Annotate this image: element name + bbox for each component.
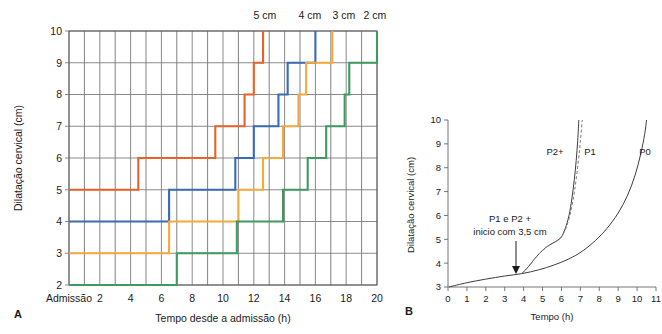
panel-a-x-tick: 14 [279,292,291,304]
curve-label-p2plus: P2+ [546,146,564,157]
panel-a-gridlines [69,31,377,285]
panel-b-x-tick: 4 [521,293,526,304]
panel-a-x-tick: 12 [248,292,260,304]
panel-b-x-tick: 3 [502,293,507,304]
panel-a-y-tick: 5 [56,184,62,196]
panel-b-y-tick: 5 [436,234,441,245]
panel-a-x-tick: 2 [97,292,103,304]
panel-b-svg: P2+ P1 P0 P1 e P2 + inicio com 3,5 cm 34… [400,0,662,334]
panel-a: 5 cm 4 cm 3 cm 2 cm 2345678910 Admissão2… [0,0,400,334]
panel-b-x-tick: 6 [559,293,564,304]
panel-b-y-axis-title: Dilatação cervical (cm) [405,157,416,253]
panel-b-x-tick: 8 [597,293,602,304]
panel-b-x-tick: 7 [578,293,583,304]
panel-b-y-tick: 9 [436,138,441,149]
panel-a-x-tick: 6 [158,292,164,304]
panel-a-y-tick: 4 [56,215,62,227]
panel-a-svg: 5 cm 4 cm 3 cm 2 cm 2345678910 Admissão2… [0,0,400,334]
panel-b-y-tick-labels: 345678910 [430,114,441,292]
panel-b-annotation-arrow [512,241,520,274]
panel-b-x-tick: 1 [464,293,469,304]
panel-a-step-curve-3-cm [69,31,332,253]
panel-b-curve-P2 [522,120,579,274]
curve-label-p0: P0 [639,146,651,157]
panel-b-y-tick: 4 [436,258,441,269]
panel-a-y-tick: 2 [56,279,62,291]
panel-a-y-tick: 6 [56,152,62,164]
panel-a-x-tick: 16 [310,292,322,304]
panel-a-x-tick: 20 [371,292,383,304]
panel-b-annotation-line1: P1 e P2 + [489,213,531,224]
panel-a-y-tick-labels: 2345678910 [50,25,69,291]
panel-a-y-tick: 8 [56,88,62,100]
panel-b-curve-P1 [522,120,583,274]
panel-b-y-tick: 6 [436,210,441,221]
curve-label-p1: P1 [584,146,596,157]
panel-b-x-tick: 5 [540,293,545,304]
panel-a-x-tick: 10 [217,292,229,304]
panel-b-letter: B [405,305,413,317]
panel-a-step-curve-5-cm [69,31,263,190]
panel-b: P2+ P1 P0 P1 e P2 + inicio com 3,5 cm 34… [400,0,662,334]
panel-a-x-tick-labels: Admissão2468101214161820 [46,292,383,304]
top-label-4cm: 4 cm [299,9,322,21]
panel-b-y-tick: 8 [436,162,441,173]
top-label-5cm: 5 cm [254,9,277,21]
panel-a-x-tick: 18 [340,292,352,304]
figure-container: 5 cm 4 cm 3 cm 2 cm 2345678910 Admissão2… [0,0,662,334]
panel-b-x-tick: 0 [445,293,450,304]
panel-b-annotation-line2: inicio com 3,5 cm [473,226,546,237]
panel-a-top-labels: 5 cm 4 cm 3 cm 2 cm [254,9,387,21]
panel-a-y-tick: 9 [56,57,62,69]
panel-b-x-tick: 11 [651,293,661,304]
panel-b-x-tick: 9 [616,293,621,304]
panel-a-y-axis-title: Dilatação cervical (cm) [12,105,24,211]
panel-a-y-tick: 3 [56,247,62,259]
panel-b-x-tick: 2 [483,293,488,304]
panel-a-y-tick: 7 [56,120,62,132]
panel-b-y-tick: 7 [436,186,441,197]
top-label-2cm: 2 cm [364,9,387,21]
panel-a-x-axis-title: Tempo desde a admissão (h) [155,312,290,324]
panel-b-x-tick: 10 [632,293,643,304]
panel-a-letter: A [14,308,22,320]
top-label-3cm: 3 cm [333,9,356,21]
panel-b-x-axis-title: Tempo (h) [531,311,574,322]
panel-a-x-tick: Admissão [46,292,92,304]
panel-a-x-tick: 8 [189,292,195,304]
panel-b-y-tick: 3 [436,281,441,292]
panel-b-y-tick: 10 [430,114,441,125]
panel-a-y-tick: 10 [50,25,62,37]
panel-a-x-tick: 4 [128,292,134,304]
panel-b-x-tick-labels: 01234567891011 [445,293,661,304]
